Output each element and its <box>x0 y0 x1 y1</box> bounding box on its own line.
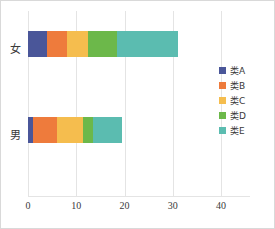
legend: 类A 类B 类C 类D 类E <box>219 64 246 136</box>
stacked-bar-chart: 女 男 0 10 20 30 40 类A 类B 类C 类D 类E <box>0 0 275 229</box>
legend-label-type-b: 类B <box>230 79 245 92</box>
legend-label-type-e: 类E <box>230 124 245 137</box>
x-tick-label-40: 40 <box>206 200 236 211</box>
category-label-male: 男 <box>5 126 25 142</box>
bar-segment-male-type-e[interactable] <box>93 117 122 143</box>
legend-swatch-icon-type-b <box>219 82 226 89</box>
bar-segment-male-type-c[interactable] <box>57 117 84 143</box>
legend-swatch-icon-type-d <box>219 112 226 119</box>
legend-swatch-icon-type-e <box>219 127 226 134</box>
bar-row-male[interactable] <box>28 117 122 143</box>
bar-segment-female-type-c[interactable] <box>67 31 89 57</box>
category-label-female: 女 <box>5 40 25 56</box>
plot-area <box>28 11 250 197</box>
bar-segment-male-type-b[interactable] <box>33 117 57 143</box>
legend-label-type-d: 类D <box>230 109 246 122</box>
bar-segment-female-type-d[interactable] <box>88 31 117 57</box>
legend-item-type-d[interactable]: 类D <box>219 109 246 121</box>
x-tick-label-20: 20 <box>110 200 140 211</box>
x-tick-label-30: 30 <box>158 200 188 211</box>
legend-item-type-b[interactable]: 类B <box>219 79 246 91</box>
legend-item-type-e[interactable]: 类E <box>219 124 246 136</box>
bar-segment-female-type-b[interactable] <box>47 31 66 57</box>
legend-swatch-icon-type-a <box>219 67 226 74</box>
x-tick-label-0: 0 <box>13 200 43 211</box>
bar-row-female[interactable] <box>28 31 178 57</box>
bar-segment-male-type-d[interactable] <box>83 117 93 143</box>
bar-segment-female-type-a[interactable] <box>28 31 47 57</box>
legend-item-type-a[interactable]: 类A <box>219 64 246 76</box>
x-tick-label-10: 10 <box>61 200 91 211</box>
legend-label-type-c: 类C <box>230 94 245 107</box>
legend-swatch-icon-type-c <box>219 97 226 104</box>
bar-segment-female-type-e[interactable] <box>117 31 177 57</box>
legend-label-type-a: 类A <box>230 64 245 77</box>
legend-item-type-c[interactable]: 类C <box>219 94 246 106</box>
x-axis-line <box>28 196 250 197</box>
